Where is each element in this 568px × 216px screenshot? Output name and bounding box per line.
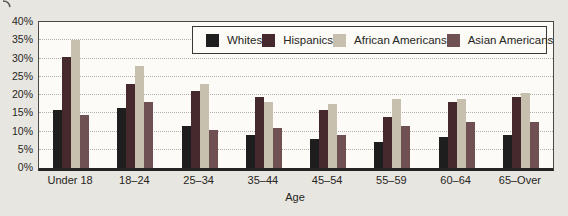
bar xyxy=(264,102,273,168)
bar xyxy=(62,57,71,168)
bar xyxy=(200,84,209,168)
figure: 0%5%10%15%20%25%30%35%40% WhitesHispanic… xyxy=(0,0,568,216)
bar xyxy=(144,102,153,168)
legend-item: Hispanics xyxy=(262,34,333,47)
bar xyxy=(530,122,539,168)
legend-item: African Americans xyxy=(333,34,447,47)
bar xyxy=(392,99,401,168)
legend-swatch xyxy=(206,34,219,47)
y-tick-label: 0% xyxy=(0,161,33,173)
bar xyxy=(310,139,319,168)
y-tick-label: 15% xyxy=(0,106,33,118)
x-tick-label: 25–34 xyxy=(167,174,231,186)
y-tick-label: 35% xyxy=(0,33,33,45)
bar xyxy=(53,110,62,168)
x-tick-label: 45–54 xyxy=(295,174,359,186)
bar xyxy=(328,104,337,168)
x-tick-label: Under 18 xyxy=(38,174,102,186)
x-tick-label: 65–Over xyxy=(488,174,552,186)
bar xyxy=(319,110,328,168)
y-tick-label: 40% xyxy=(0,15,33,27)
x-axis: Under 1818–2425–3435–4445–5455–5960–6465… xyxy=(38,174,552,186)
bar xyxy=(337,135,346,168)
bar xyxy=(512,97,521,168)
x-tick-label: 18–24 xyxy=(102,174,166,186)
legend-label: Whites xyxy=(227,34,262,46)
y-tick-label: 25% xyxy=(0,70,33,82)
bar xyxy=(182,126,191,168)
bar xyxy=(80,115,89,168)
x-tick-label: 55–59 xyxy=(359,174,423,186)
bar xyxy=(466,122,475,168)
x-tick-label: 35–44 xyxy=(231,174,295,186)
bar xyxy=(521,93,530,168)
bar xyxy=(457,99,466,168)
bar xyxy=(71,40,80,168)
bar xyxy=(383,117,392,168)
legend-label: Hispanics xyxy=(283,34,333,46)
corner-artifact-icon xyxy=(2,0,14,8)
legend: WhitesHispanicsAfrican AmericansAsian Am… xyxy=(192,26,547,54)
y-tick-label: 20% xyxy=(0,88,33,100)
legend-swatch xyxy=(447,34,460,47)
legend-label: African Americans xyxy=(354,34,447,46)
plot-area: WhitesHispanicsAfrican AmericansAsian Am… xyxy=(38,21,554,171)
bar xyxy=(255,97,264,168)
legend-swatch xyxy=(333,34,346,47)
bar xyxy=(401,126,410,168)
legend-item: Asian Americans xyxy=(447,34,554,47)
bar-group xyxy=(103,22,167,168)
bar xyxy=(191,91,200,168)
bar xyxy=(503,135,512,168)
y-tick-label: 30% xyxy=(0,52,33,64)
y-tick-label: 5% xyxy=(0,143,33,155)
x-tick-label: 60–64 xyxy=(424,174,488,186)
bar xyxy=(209,130,218,168)
legend-swatch xyxy=(262,34,275,47)
bar xyxy=(273,128,282,168)
legend-label: Asian Americans xyxy=(468,34,554,46)
bar xyxy=(117,108,126,168)
bar xyxy=(135,66,144,168)
bar xyxy=(374,142,383,168)
bar xyxy=(126,84,135,168)
legend-item: Whites xyxy=(206,34,262,47)
y-tick-label: 10% xyxy=(0,125,33,137)
x-axis-title: Age xyxy=(38,191,552,203)
bar-group xyxy=(39,22,103,168)
bar xyxy=(439,137,448,168)
bar xyxy=(448,102,457,168)
bar xyxy=(246,135,255,168)
